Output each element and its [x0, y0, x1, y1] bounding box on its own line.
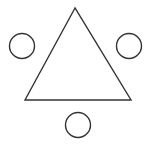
triangle	[25, 8, 131, 100]
left-circle	[10, 34, 35, 59]
bottom-circle	[66, 113, 91, 138]
diagram-canvas	[0, 0, 148, 147]
diagram-svg	[0, 0, 148, 147]
right-circle	[117, 34, 142, 59]
